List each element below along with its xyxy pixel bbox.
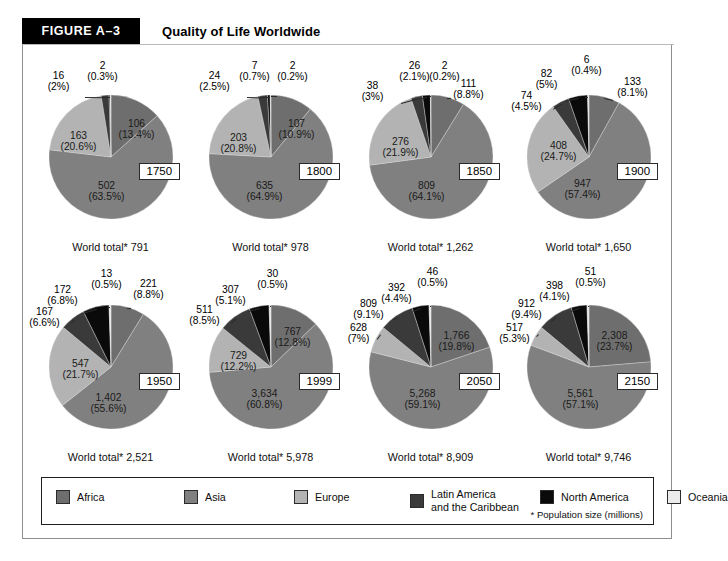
slice-label-oceania: 6(0.4%)	[571, 54, 601, 77]
year-badge: 2150	[617, 373, 659, 390]
slice-percent: (10.9%)	[278, 129, 314, 140]
slice-value: 307	[215, 284, 245, 295]
slice-label-oceania: 51(0.5%)	[575, 266, 605, 289]
slice-label-europe: 547(21.7%)	[62, 358, 98, 381]
pie-chart-1999: 1999767(12.8%)3,634(60.8%)729(12.2%)511(…	[189, 263, 352, 473]
year-badge: 1800	[299, 163, 341, 180]
legend-label: Africa	[77, 491, 104, 504]
figure-number-tag: FIGURE A–3	[22, 18, 140, 44]
slice-value: 2,308	[596, 330, 632, 341]
pie-graphic: 1800107(10.9%)635(64.9%)203(20.8%)24(2.5…	[209, 95, 333, 219]
legend-swatch	[184, 490, 198, 504]
slice-label-north: 392(4.4%)	[381, 282, 411, 305]
slice-percent: (64.1%)	[408, 191, 444, 202]
slice-label-asia: 809(64.1%)	[408, 180, 444, 203]
slice-label-africa: 2,308(23.7%)	[596, 330, 632, 353]
slice-percent: (8.1%)	[617, 87, 647, 98]
year-badge: 1999	[299, 373, 341, 390]
pie-chart-2150: 21502,308(23.7%)5,561(57.1%)517(5.3%)912…	[507, 263, 670, 473]
slice-label-oceania: 46(0.5%)	[417, 266, 447, 289]
legend-item-europe[interactable]: Europe	[294, 490, 349, 504]
slice-label-latin: 511(8.5%)	[189, 304, 219, 327]
world-total-caption: World total* 9,746	[507, 451, 670, 463]
leader-line	[270, 306, 271, 307]
legend-label-line1: Latin America	[431, 488, 519, 501]
slice-percent: (63.5%)	[88, 191, 124, 202]
slice-label-africa: 767(12.8%)	[274, 326, 310, 349]
slice-percent: (9.4%)	[511, 309, 541, 320]
slice-value: 392	[381, 282, 411, 293]
slice-value: 809	[408, 180, 444, 191]
legend-label: Oceania	[688, 491, 728, 504]
pie-chart-2050: 20501,766(19.8%)5,268(59.1%)628(7%)809(9…	[349, 263, 512, 473]
slice-percent: (64.9%)	[246, 191, 282, 202]
slice-value: 729	[220, 350, 256, 361]
slice-percent: (5.1%)	[215, 295, 245, 306]
legend-item-africa[interactable]: Africa	[56, 490, 104, 504]
slice-percent: (4.4%)	[381, 293, 411, 304]
slice-value: 24	[199, 70, 229, 81]
slice-percent: (0.5%)	[575, 277, 605, 288]
leader-line	[584, 97, 587, 98]
slice-label-oceania: 13(0.5%)	[91, 268, 121, 291]
slice-label-europe: 517(5.3%)	[499, 322, 529, 345]
slice-value: 767	[274, 326, 310, 337]
slice-label-asia: 502(63.5%)	[88, 180, 124, 203]
slice-value: 163	[60, 130, 96, 141]
pie-graphic: 1900133(8.1%)947(57.4%)408(24.7%)74(4.5%…	[527, 95, 651, 219]
slice-label-north: 82(5%)	[536, 68, 558, 91]
slice-value: 912	[511, 298, 541, 309]
slice-percent: (0.5%)	[91, 279, 121, 290]
slice-label-latin: 38(3%)	[362, 80, 384, 103]
slice-percent: (8.8%)	[453, 89, 483, 100]
legend-item-latin-america-and-the-caribbean[interactable]: Latin Americaand the Caribbean	[410, 488, 519, 513]
slice-percent: (57.1%)	[562, 399, 598, 410]
slice-value: 2	[429, 60, 459, 71]
leader-line	[270, 96, 276, 97]
world-total-caption: World total* 791	[29, 241, 192, 253]
slice-value: 2	[87, 60, 117, 71]
slice-label-europe: 628(7%)	[348, 322, 370, 345]
slice-value: 628	[348, 322, 370, 333]
slice-label-asia: 1,402(55.6%)	[90, 392, 126, 415]
slice-value: 398	[539, 280, 569, 291]
year-badge: 1950	[139, 373, 181, 390]
slice-label-latin: 74(4.5%)	[511, 90, 541, 113]
legend-label: Latin Americaand the Caribbean	[431, 488, 519, 513]
slice-percent: (6.8%)	[47, 295, 77, 306]
legend-footnote: * Population size (millions)	[530, 509, 643, 520]
slice-label-north: 7(0.7%)	[239, 60, 269, 83]
slice-label-africa: 221(8.8%)	[133, 278, 163, 301]
slice-percent: (5%)	[536, 79, 558, 90]
slice-percent: (12.2%)	[220, 361, 256, 372]
slice-percent: (0.7%)	[239, 71, 269, 82]
legend-item-north-america[interactable]: North America	[540, 490, 629, 504]
slice-percent: (23.7%)	[596, 341, 632, 352]
legend-item-asia[interactable]: Asia	[184, 490, 226, 504]
slice-value: 38	[362, 80, 384, 91]
leader-line	[429, 306, 430, 307]
slice-value: 1,402	[90, 392, 126, 403]
legend-item-oceania[interactable]: Oceania	[667, 490, 728, 504]
legend-label-line2: and the Caribbean	[431, 501, 519, 514]
slice-percent: (19.8%)	[438, 341, 474, 352]
slice-label-asia: 5,561(57.1%)	[562, 388, 598, 411]
slice-percent: (0.2%)	[277, 71, 307, 82]
pie-chart-1850: 1850111(8.8%)809(64.1%)276(21.9%)38(3%)2…	[349, 53, 512, 263]
slice-label-africa: 107(10.9%)	[278, 118, 314, 141]
slice-label-north: 398(4.1%)	[539, 280, 569, 303]
slice-percent: (57.4%)	[564, 189, 600, 200]
slice-percent: (0.5%)	[417, 277, 447, 288]
slice-percent: (21.9%)	[382, 147, 418, 158]
pie-graphic: 1750106(13.4%)502(63.5%)163(20.6%)16(2%)…	[49, 95, 173, 219]
pie-graphic: 20501,766(19.8%)5,268(59.1%)628(7%)809(9…	[369, 305, 493, 429]
slice-percent: (6.6%)	[29, 317, 59, 328]
slice-percent: (0.2%)	[429, 71, 459, 82]
slice-value: 107	[278, 118, 314, 129]
leader-line	[262, 97, 268, 98]
legend-label: North America	[561, 491, 629, 504]
world-total-caption: World total* 5,978	[189, 451, 352, 463]
pie-graphic: 1999767(12.8%)3,634(60.8%)729(12.2%)511(…	[209, 305, 333, 429]
slice-label-asia: 5,268(59.1%)	[404, 388, 440, 411]
pie-slices	[527, 305, 651, 429]
